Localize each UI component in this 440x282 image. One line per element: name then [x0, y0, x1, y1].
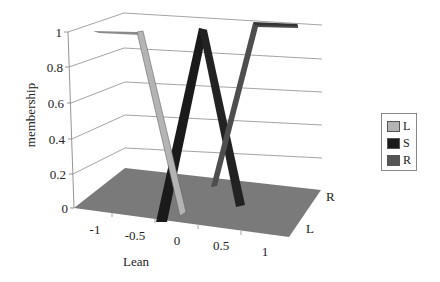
legend-item-r: R: [387, 154, 411, 166]
legend-label-l: L: [403, 120, 410, 132]
svg-text:1: 1: [56, 25, 63, 40]
svg-text:0.8: 0.8: [47, 60, 63, 75]
svg-text:0: 0: [174, 233, 181, 248]
svg-text:0.6: 0.6: [48, 96, 65, 111]
legend-item-l: L: [387, 120, 410, 132]
series-r-ribbon: [211, 22, 298, 187]
svg-text:0.2: 0.2: [50, 167, 66, 182]
legend-swatch-l: [387, 121, 400, 132]
gridlines: [68, 13, 322, 174]
svg-text:L: L: [306, 221, 314, 236]
legend-label-s: S: [403, 137, 410, 149]
chart-floor: [74, 168, 321, 237]
svg-text:1: 1: [262, 244, 269, 259]
legend-item-s: S: [387, 137, 410, 149]
x-axis-title: Lean: [123, 254, 149, 269]
svg-text:-1: -1: [90, 222, 101, 237]
svg-text:0.5: 0.5: [213, 238, 229, 253]
membership-3d-chart: 1 0.8 0.6 0.4 0.2 0 -1 -0.5 0 0.5 1 R L …: [0, 0, 440, 282]
y-tick-labels: 1 0.8 0.6 0.4 0.2 0: [47, 25, 68, 216]
legend-swatch-r: [387, 155, 400, 166]
svg-text:0.4: 0.4: [49, 132, 66, 147]
chart-legend: L S R: [381, 113, 417, 171]
y-axis-title: membership: [23, 83, 38, 147]
svg-text:0: 0: [62, 201, 69, 216]
legend-swatch-s: [387, 138, 400, 149]
legend-label-r: R: [403, 154, 411, 166]
y-axis-line: [68, 32, 74, 208]
svg-text:-0.5: -0.5: [125, 228, 146, 243]
svg-text:R: R: [326, 189, 335, 204]
